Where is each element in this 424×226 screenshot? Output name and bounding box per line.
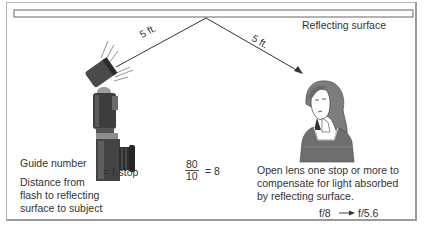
flash-camera-illustration xyxy=(84,57,135,181)
stop-change-arrow-icon xyxy=(349,211,355,216)
reflecting-surface xyxy=(14,10,413,17)
stop-from-label: f/8 xyxy=(319,207,331,220)
note-line-3: by reflecting surface. xyxy=(257,190,354,203)
distance-label-line-1: Distance from xyxy=(20,176,85,189)
stop-to-label: f/5.6 xyxy=(358,207,378,220)
distance-label-line-2: flash to reflecting xyxy=(20,189,99,202)
guide-number-label: Guide number xyxy=(20,157,87,170)
equals-f-stop-label: = f-stop xyxy=(103,166,138,179)
note-line-2: compensate for light absorbed xyxy=(257,177,398,190)
distance-label-line-3: surface to subject xyxy=(20,202,102,215)
light-path-incident xyxy=(116,18,206,67)
surface-label: Reflecting surface xyxy=(302,19,386,32)
light-path-reflected xyxy=(206,18,300,72)
arrow-head-icon xyxy=(294,66,303,74)
example-fraction: 80 10 xyxy=(185,159,199,182)
note-line-1: Open lens one stop or more to xyxy=(257,164,399,177)
example-denominator: 10 xyxy=(185,171,199,182)
example-result: = 8 xyxy=(205,165,220,178)
woman-subject-illustration xyxy=(300,81,354,162)
